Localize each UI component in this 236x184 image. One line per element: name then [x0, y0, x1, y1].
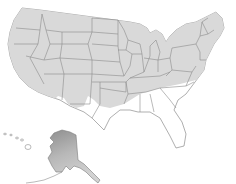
hawaii	[4, 133, 32, 149]
alaska-aleutian-chain	[26, 172, 62, 183]
us-range-map	[0, 0, 236, 184]
range-shaded-region	[0, 0, 236, 108]
